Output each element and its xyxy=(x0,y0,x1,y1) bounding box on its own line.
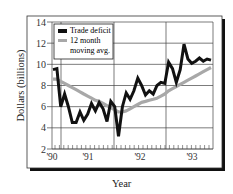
svg-text:'93: '93 xyxy=(186,152,197,162)
y-axis-title: Dollars (billions) xyxy=(15,36,26,136)
svg-text:'90: '90 xyxy=(46,152,57,162)
legend-label-avg-2: moving avg. xyxy=(70,46,110,55)
svg-text:6: 6 xyxy=(41,101,46,112)
legend-label-avg-1: 12 month xyxy=(70,36,100,45)
x-axis-title: Year xyxy=(112,178,131,189)
legend: Trade deficit 12 month moving avg. xyxy=(54,24,113,59)
svg-text:'92: '92 xyxy=(134,152,145,162)
svg-text:12: 12 xyxy=(36,38,46,49)
svg-text:14: 14 xyxy=(36,17,46,28)
legend-swatch-avg xyxy=(58,39,67,42)
svg-text:10: 10 xyxy=(36,59,46,70)
trade-deficit-chart: 2468101214 '90'91'92'93 Trade deficit 12… xyxy=(0,0,233,194)
svg-text:2: 2 xyxy=(41,144,46,155)
svg-text:4: 4 xyxy=(41,122,46,133)
svg-text:8: 8 xyxy=(41,80,46,91)
legend-label-deficit: Trade deficit xyxy=(70,26,112,35)
legend-swatch-deficit xyxy=(58,29,67,33)
svg-text:'91: '91 xyxy=(82,152,93,162)
